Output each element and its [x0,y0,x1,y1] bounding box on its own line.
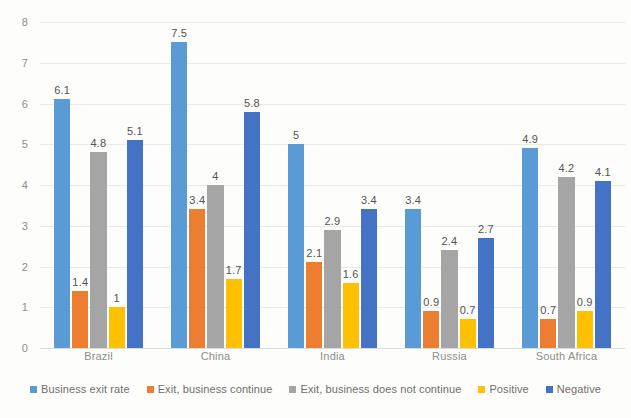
bar[interactable]: 1 [109,307,125,348]
bar-slot: 4.1 [595,22,611,348]
bar[interactable]: 3.4 [189,209,205,348]
legend-swatch-icon [147,386,154,393]
bar-value-label: 1.7 [226,264,242,276]
legend-item[interactable]: Exit, business continue [147,383,273,395]
bar-value-label: 4.8 [91,137,107,149]
x-axis: BrazilChinaIndiaRussiaSouth Africa [40,350,625,370]
bar-value-label: 1.6 [343,268,359,280]
bar-slot: 2.7 [478,22,494,348]
bar-group: 4.90.74.20.94.1 [508,22,625,348]
legend-swatch-icon [546,386,553,393]
bar-slot: 1.7 [226,22,242,348]
bar-value-label: 0.7 [540,304,556,316]
bar-value-label: 4.1 [595,166,611,178]
legend-label: Negative [557,383,601,395]
bar[interactable]: 5.8 [244,112,260,348]
bar[interactable]: 0.7 [540,319,556,348]
bar-group: 7.53.441.75.8 [157,22,274,348]
bar-groups: 6.11.44.815.17.53.441.75.852.12.91.63.43… [40,22,625,348]
bar-slot: 4.8 [90,22,106,348]
y-axis-tick-label: 8 [22,16,28,28]
legend-item[interactable]: Exit, business does not continue [289,383,461,395]
y-axis-tick-label: 0 [22,342,28,354]
legend-label: Positive [489,383,528,395]
bar-value-label: 5.1 [127,125,143,137]
bar-slot: 5 [288,22,304,348]
bar-slot: 2.4 [441,22,457,348]
bar-slot: 3.4 [405,22,421,348]
bar-slot: 0.7 [460,22,476,348]
bar[interactable]: 4.8 [90,152,106,348]
bar-value-label: 1 [114,292,120,304]
x-axis-category-label: India [274,350,391,370]
bar[interactable]: 4.2 [558,177,574,348]
legend-label: Business exit rate [41,383,130,395]
y-axis-tick-label: 5 [22,138,28,150]
bar-slot: 2.9 [324,22,340,348]
legend-label: Exit, business does not continue [300,383,461,395]
bar[interactable]: 4.1 [595,181,611,348]
legend-swatch-icon [478,386,485,393]
bar-slot: 5.8 [244,22,260,348]
bar[interactable]: 6.1 [54,99,70,348]
bar[interactable]: 3.4 [361,209,377,348]
y-axis: 876543210 [0,22,38,348]
bar[interactable]: 7.5 [171,42,187,348]
bar-group: 3.40.92.40.72.7 [391,22,508,348]
x-axis-category-label: South Africa [508,350,625,370]
bar-slot: 4.9 [522,22,538,348]
bar-value-label: 4.9 [522,133,538,145]
bar-value-label: 4.2 [559,162,575,174]
bar-slot: 3.4 [361,22,377,348]
bar-value-label: 2.7 [478,223,494,235]
y-axis-tick-label: 1 [22,301,28,313]
bar-group: 52.12.91.63.4 [274,22,391,348]
bar[interactable]: 0.9 [423,311,439,348]
y-axis-tick-label: 3 [22,220,28,232]
legend-swatch-icon [30,386,37,393]
x-axis-category-label: China [157,350,274,370]
bar[interactable]: 1.4 [72,291,88,348]
y-axis-tick-label: 6 [22,98,28,110]
bar-group: 6.11.44.815.1 [40,22,157,348]
bar-value-label: 2.1 [306,247,322,259]
bar[interactable]: 5 [288,144,304,348]
bar[interactable]: 2.7 [478,238,494,348]
bar-value-label: 5.8 [244,97,260,109]
bar-value-label: 3.4 [361,194,377,206]
bar-slot: 4.2 [558,22,574,348]
bar[interactable]: 4.9 [522,148,538,348]
bar-value-label: 0.7 [460,304,476,316]
bar-value-label: 2.4 [442,235,458,247]
legend-swatch-icon [289,386,296,393]
bar[interactable]: 2.4 [441,250,457,348]
legend-item[interactable]: Negative [546,383,601,395]
legend-item[interactable]: Business exit rate [30,383,130,395]
bar-value-label: 0.9 [423,296,439,308]
bar[interactable]: 0.9 [577,311,593,348]
bar[interactable]: 4 [207,185,223,348]
bar-value-label: 3.4 [405,194,421,206]
bar-value-label: 6.1 [54,84,70,96]
bar-slot: 1 [109,22,125,348]
bar-value-label: 7.5 [171,27,187,39]
bar[interactable]: 3.4 [405,209,421,348]
bar[interactable]: 2.1 [306,262,322,348]
bar-value-label: 3.4 [189,194,205,206]
legend-label: Exit, business continue [158,383,273,395]
bar-slot: 4 [207,22,223,348]
bar-slot: 6.1 [54,22,70,348]
bar[interactable]: 1.7 [226,279,242,348]
bar[interactable]: 0.7 [460,319,476,348]
bar-slot: 2.1 [306,22,322,348]
bar-slot: 3.4 [189,22,205,348]
bar[interactable]: 2.9 [324,230,340,348]
x-axis-category-label: Russia [391,350,508,370]
bar[interactable]: 5.1 [127,140,143,348]
bar-slot: 0.9 [577,22,593,348]
legend-item[interactable]: Positive [478,383,528,395]
bar[interactable]: 1.6 [343,283,359,348]
legend: Business exit rateExit, business continu… [0,383,631,395]
bar-value-label: 0.9 [577,296,593,308]
bar-value-label: 1.4 [72,276,88,288]
